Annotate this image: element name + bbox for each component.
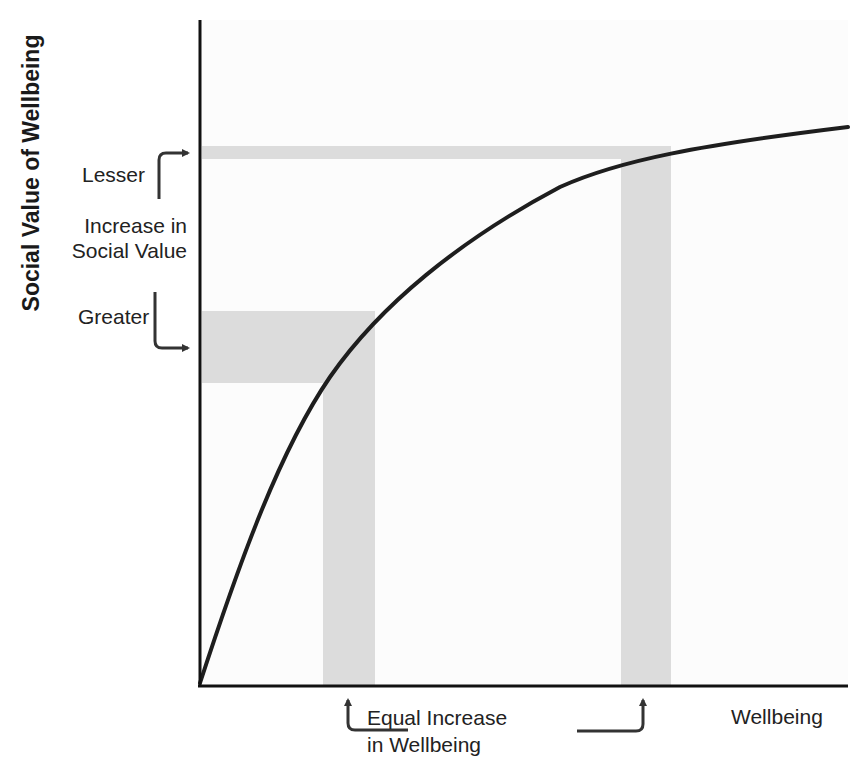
increase-label-line2: Social Value: [60, 239, 187, 263]
y-axis-title: Social Value of Wellbeing: [18, 35, 45, 312]
x-axis-title: Wellbeing: [731, 705, 823, 729]
high-vertical-band: [621, 159, 671, 685]
increase-label-line1: Increase in: [60, 214, 187, 238]
lesser-label: Lesser: [82, 163, 145, 187]
equal-increase-line1: Equal Increase: [367, 706, 507, 730]
lesser-horizontal-band: [202, 146, 671, 159]
chart-canvas: [0, 0, 860, 768]
greater-label: Greater: [78, 305, 149, 329]
lesser-arrow-icon: [159, 153, 188, 199]
greater-arrow-icon: [155, 292, 188, 348]
equal-increase-line2: in Wellbeing: [367, 733, 481, 757]
greater-horizontal-band: [202, 311, 375, 383]
equal-right-arrow-icon: [577, 700, 643, 731]
low-vertical-band: [323, 383, 375, 685]
